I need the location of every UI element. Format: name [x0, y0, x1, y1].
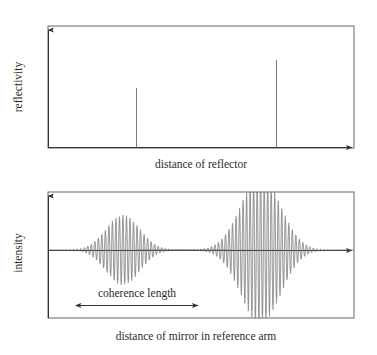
top-x-axis-label: distance of reflector	[155, 158, 247, 170]
top-y-axis-label: reflectivity	[12, 62, 25, 113]
top-spikes	[137, 60, 277, 148]
bottom-x-axis-label: distance of mirror in reference arm	[116, 330, 277, 342]
bottom-plot-frame	[48, 192, 354, 318]
wave-packet-2	[137, 176, 353, 323]
top-plot-frame	[48, 26, 354, 148]
oct-coherence-figure: reflectivity distance of reflector coher…	[0, 0, 377, 355]
interferogram-plot: coherence length intensity distance of m…	[12, 176, 354, 342]
reflectivity-plot: reflectivity distance of reflector	[12, 26, 354, 170]
coherence-length-label: coherence length	[98, 287, 176, 300]
bottom-y-axis-label: intensity	[12, 233, 25, 273]
figure-canvas: reflectivity distance of reflector coher…	[0, 0, 377, 355]
interference-wave-packets	[48, 176, 354, 323]
